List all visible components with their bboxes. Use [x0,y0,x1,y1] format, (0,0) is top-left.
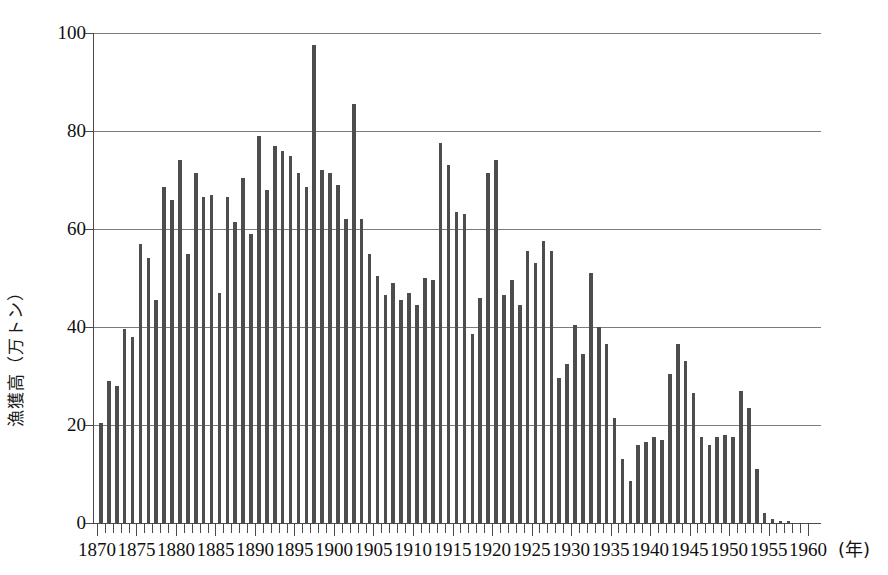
x-minor-tick [579,524,580,533]
bar [407,293,411,523]
x-minor-tick [129,524,130,533]
bar [344,219,348,523]
x-minor-tick [113,524,114,533]
x-minor-tick [603,524,604,533]
x-minor-tick [468,524,469,533]
x-minor-tick [405,524,406,533]
x-axis-ticks [93,524,820,536]
y-tick-mark [85,327,93,328]
x-minor-tick [666,524,667,533]
x-minor-tick [445,524,446,533]
x-minor-tick [152,524,153,533]
bar [771,519,775,523]
x-major-tick [373,524,374,536]
bar [115,386,119,523]
x-major-tick [176,524,177,536]
x-minor-tick [421,524,422,533]
x-minor-tick [508,524,509,533]
y-axis-title: 漁獲高（万トン） [2,190,27,520]
x-minor-tick [200,524,201,533]
bar [218,293,222,523]
bar [194,173,198,523]
x-minor-tick [231,524,232,533]
x-major-tick [334,524,335,536]
bar [147,258,151,523]
x-minor-tick [792,524,793,533]
x-minor-tick [737,524,738,533]
bar [241,178,245,523]
x-minor-tick [484,524,485,533]
bar [131,337,135,523]
x-minor-tick [516,524,517,533]
x-minor-tick [618,524,619,533]
x-minor-tick [184,524,185,533]
x-major-tick [255,524,256,536]
bar [597,327,601,523]
bar [573,325,577,523]
bar [210,195,214,523]
bar [423,278,427,523]
bar [415,305,419,523]
bar [226,197,230,523]
x-minor-tick [642,524,643,533]
x-minor-tick [682,524,683,533]
x-minor-tick [326,524,327,533]
x-minor-tick [223,524,224,533]
bar [186,254,190,524]
x-major-tick [413,524,414,536]
x-minor-tick [634,524,635,533]
bar [731,437,735,523]
x-minor-tick [381,524,382,533]
bar [281,151,285,523]
y-tick-label: 20 [26,415,86,434]
bar [447,165,451,523]
x-minor-tick [713,524,714,533]
bar [589,273,593,523]
x-minor-tick [350,524,351,533]
x-minor-tick [366,524,367,533]
bar [178,160,182,523]
x-major-tick [808,524,809,536]
y-tick-label: 0 [26,513,86,532]
bar [297,173,301,523]
bar [384,295,388,523]
bar [312,45,316,523]
bar [439,143,443,523]
bar [550,251,554,523]
bar [510,280,514,523]
x-minor-tick [674,524,675,533]
bar [486,173,490,523]
y-tick-mark [85,229,93,230]
x-minor-tick [429,524,430,533]
y-tick-mark [85,425,93,426]
bar [518,305,522,523]
bar [336,185,340,523]
x-minor-tick [397,524,398,533]
bar [763,513,767,523]
x-minor-tick [555,524,556,533]
bar [526,251,530,523]
bar [668,374,672,523]
x-minor-tick [753,524,754,533]
bar [534,263,538,523]
x-minor-tick [745,524,746,533]
x-major-tick [97,524,98,536]
bar [463,214,467,523]
bar [644,442,648,523]
bar [700,437,704,523]
x-major-tick [294,524,295,536]
x-minor-tick [168,524,169,533]
bar-series [93,33,820,523]
x-minor-tick [437,524,438,533]
x-minor-tick [776,524,777,533]
x-minor-tick [476,524,477,533]
bar [249,234,253,523]
x-major-tick [690,524,691,536]
y-tick-label: 80 [26,121,86,140]
bar [652,437,656,523]
x-minor-tick [784,524,785,533]
bar [455,212,459,523]
bar [739,391,743,523]
bar [636,445,640,523]
bar [99,423,103,523]
